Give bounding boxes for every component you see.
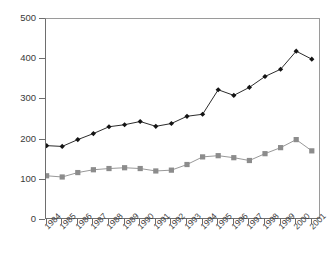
- x-axis: 1984198519861987198819891990199119921993…: [0, 0, 335, 263]
- x-tick-label-2001: 2001: [308, 212, 327, 231]
- chart-figure: 5004003002001000 19841985198619871988198…: [0, 0, 335, 263]
